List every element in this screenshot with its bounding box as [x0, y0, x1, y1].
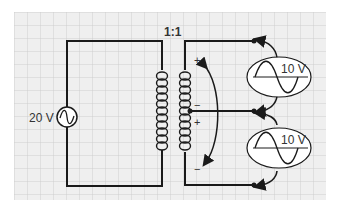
upper-output-voltage-label: 10 V	[281, 62, 306, 76]
polarity-plus-center-lower: +	[194, 116, 200, 128]
polarity-plus-top: +	[194, 54, 200, 66]
lower-output-voltage-label: 10 V	[281, 133, 306, 147]
transformer-ratio-label: 1:1	[164, 25, 182, 39]
circuit-diagram: 20 V 1:1	[0, 0, 340, 215]
grid-background	[14, 12, 326, 200]
polarity-minus-bottom: −	[194, 163, 200, 175]
polarity-minus-center-upper: −	[194, 99, 200, 111]
ac-source-icon	[57, 107, 77, 127]
source-voltage-label: 20 V	[29, 111, 54, 125]
